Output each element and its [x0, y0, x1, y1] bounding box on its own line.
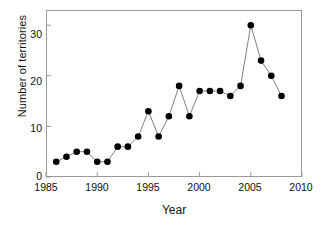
- x-tick-label-1985: 1985: [24, 182, 68, 193]
- y-axis-title: Number of territories: [16, 0, 28, 136]
- line-chart: 30 20 10 0 1985 1990 1995 2000 2005 2010…: [0, 0, 331, 229]
- plot-area: [46, 10, 302, 177]
- x-tick-label-2000: 2000: [177, 182, 221, 193]
- x-tick-label-1990: 1990: [75, 182, 119, 193]
- x-tick-label-2005: 2005: [228, 182, 272, 193]
- x-axis-title: Year: [46, 203, 302, 217]
- x-tick-label-1995: 1995: [126, 182, 170, 193]
- x-tick-label-2010: 2010: [279, 182, 323, 193]
- y-tick-label-0: 0: [2, 171, 42, 182]
